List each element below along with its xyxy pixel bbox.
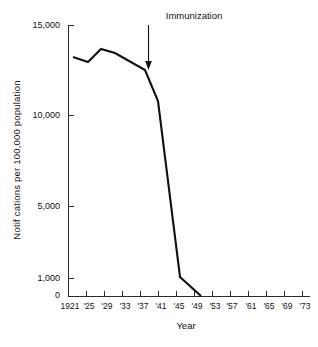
x-tick-label-1937: '37 [137, 301, 148, 311]
data-series-line [73, 49, 201, 296]
chart-figure: Notif cations per 100,000 population 15,… [0, 0, 318, 347]
x-tick-label-1945: '45 [173, 301, 184, 311]
x-tick-label-1965: '65 [263, 301, 274, 311]
annotation-label-immunization: Immunization [166, 10, 223, 21]
y-tick-label-10000: 10,000 [32, 110, 60, 120]
axis-spine [69, 25, 311, 297]
x-tick-label-1953: '53 [209, 301, 220, 311]
x-tick-label-1961: '61 [245, 301, 256, 311]
x-tick-label-1929: '29 [101, 301, 112, 311]
x-tick-label-1925: '25 [83, 301, 94, 311]
line-chart-canvas: Notif cations per 100,000 population 15,… [0, 0, 318, 347]
x-axis-title: Year [176, 320, 195, 331]
y-tick-label-5000: 5,000 [37, 201, 60, 211]
x-tick-label-1973: '73 [299, 301, 310, 311]
annotation-arrow-head-icon [145, 61, 152, 70]
y-axis-title: Notif cations per 100,000 population [11, 80, 22, 239]
x-tick-label-1921: 1921 [61, 301, 80, 311]
y-tick-label-15000: 15,000 [32, 20, 60, 30]
y-tick-label-1000: 1,000 [37, 273, 60, 283]
x-tick-label-1957: '57 [226, 301, 237, 311]
y-tick-label-0: 0 [55, 290, 60, 300]
x-tick-label-1949: '49 [191, 301, 202, 311]
x-tick-label-1941: '41 [155, 301, 166, 311]
x-tick-label-1933: '33 [119, 301, 130, 311]
x-tick-label-1969: '69 [281, 301, 292, 311]
